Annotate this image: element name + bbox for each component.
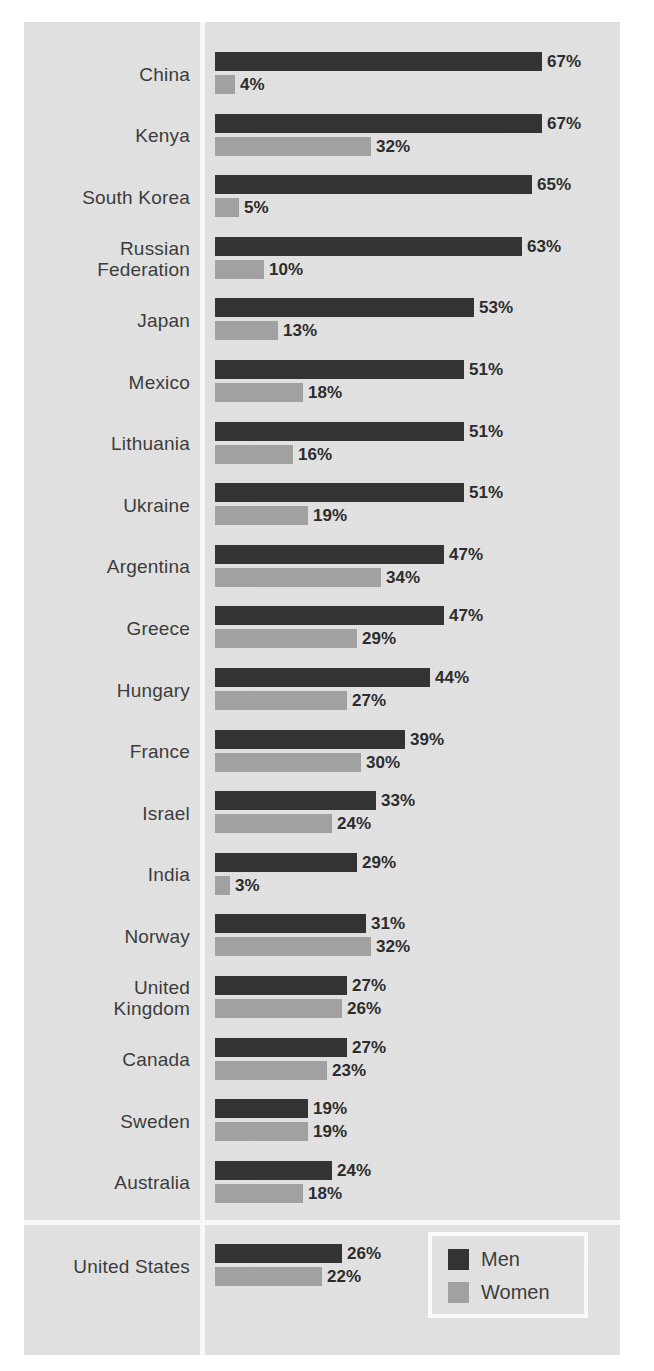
bar-value-label: 67% xyxy=(547,50,581,73)
category-label-line: Australia xyxy=(24,1172,190,1193)
bar-women: 5% xyxy=(215,198,615,217)
legend-label-women: Women xyxy=(481,1278,550,1306)
bar-fill-women xyxy=(215,321,278,340)
category-label-line: Russian xyxy=(24,238,190,259)
bar-fill-women xyxy=(215,198,239,217)
bar-men: 44% xyxy=(215,668,615,687)
bar-women: 26% xyxy=(215,999,615,1018)
category-label: Canada xyxy=(24,1049,190,1070)
category-label-line: China xyxy=(24,64,190,85)
category-label-line: Japan xyxy=(24,310,190,331)
category-label-line: Argentina xyxy=(24,556,190,577)
bar-fill-women xyxy=(215,260,264,279)
bar-value-label: 32% xyxy=(376,935,410,958)
bar-value-label: 16% xyxy=(298,443,332,466)
bar-value-label: 51% xyxy=(469,420,503,443)
category-label: China xyxy=(24,64,190,85)
bar-value-label: 33% xyxy=(381,789,415,812)
bar-women: 19% xyxy=(215,1122,615,1141)
bar-men: 67% xyxy=(215,52,615,71)
bar-value-label: 47% xyxy=(449,604,483,627)
bar-men: 29% xyxy=(215,853,615,872)
category-label: Japan xyxy=(24,310,190,331)
category-label: Sweden xyxy=(24,1111,190,1132)
bar-men: 65% xyxy=(215,175,615,194)
bar-fill-women xyxy=(215,383,303,402)
bar-fill-women xyxy=(215,445,293,464)
bar-women: 10% xyxy=(215,260,615,279)
bar-value-label: 22% xyxy=(327,1265,361,1288)
bar-value-label: 31% xyxy=(371,912,405,935)
bar-women: 24% xyxy=(215,814,615,833)
bar-men: 33% xyxy=(215,791,615,810)
bar-fill-men xyxy=(215,114,542,133)
bar-men: 24% xyxy=(215,1161,615,1180)
bar-fill-men xyxy=(215,1244,342,1263)
bar-women: 30% xyxy=(215,753,615,772)
bar-value-label: 26% xyxy=(347,1242,381,1265)
category-label: Lithuania xyxy=(24,433,190,454)
legend-swatch-women-icon xyxy=(448,1282,469,1303)
bar-value-label: 34% xyxy=(386,566,420,589)
chart-panel: China67%4%Kenya67%32%South Korea65%5%Rus… xyxy=(24,22,620,1355)
bar-fill-women xyxy=(215,814,332,833)
category-label: Ukraine xyxy=(24,495,190,516)
bar-fill-women xyxy=(215,1061,327,1080)
bar-men: 51% xyxy=(215,360,615,379)
bar-value-label: 27% xyxy=(352,974,386,997)
bar-women: 32% xyxy=(215,137,615,156)
bar-fill-men xyxy=(215,483,464,502)
bar-value-label: 26% xyxy=(347,997,381,1020)
category-label-line: Sweden xyxy=(24,1111,190,1132)
category-label: Australia xyxy=(24,1172,190,1193)
bar-value-label: 47% xyxy=(449,543,483,566)
category-label: RussianFederation xyxy=(24,238,190,280)
bar-value-label: 13% xyxy=(283,319,317,342)
category-label-line: Canada xyxy=(24,1049,190,1070)
bar-men: 19% xyxy=(215,1099,615,1118)
bar-men: 47% xyxy=(215,606,615,625)
category-label: Israel xyxy=(24,803,190,824)
bar-fill-men xyxy=(215,1161,332,1180)
bar-fill-men xyxy=(215,914,366,933)
category-label-line: Kenya xyxy=(24,125,190,146)
bar-fill-women xyxy=(215,506,308,525)
bar-fill-men xyxy=(215,606,444,625)
bar-women: 29% xyxy=(215,629,615,648)
bar-value-label: 65% xyxy=(537,173,571,196)
bar-men: 47% xyxy=(215,545,615,564)
bar-men: 31% xyxy=(215,914,615,933)
bar-women: 32% xyxy=(215,937,615,956)
category-label: UnitedKingdom xyxy=(24,977,190,1019)
bar-men: 27% xyxy=(215,1038,615,1057)
bar-women: 19% xyxy=(215,506,615,525)
bar-fill-men xyxy=(215,175,532,194)
bar-value-label: 23% xyxy=(332,1059,366,1082)
bar-value-label: 53% xyxy=(479,296,513,319)
bar-fill-men xyxy=(215,52,542,71)
bar-fill-women xyxy=(215,937,371,956)
bar-fill-women xyxy=(215,691,347,710)
bar-women: 27% xyxy=(215,691,615,710)
category-label-line: Lithuania xyxy=(24,433,190,454)
bar-value-label: 24% xyxy=(337,1159,371,1182)
bar-value-label: 29% xyxy=(362,851,396,874)
highlight-row-separator xyxy=(24,1220,620,1225)
bar-value-label: 19% xyxy=(313,1120,347,1143)
bar-fill-women xyxy=(215,568,381,587)
bar-men: 51% xyxy=(215,483,615,502)
category-label-line: Ukraine xyxy=(24,495,190,516)
legend: Men Women xyxy=(428,1232,588,1318)
bar-women: 18% xyxy=(215,383,615,402)
bar-value-label: 3% xyxy=(235,874,260,897)
bar-fill-men xyxy=(215,668,430,687)
bar-men: 63% xyxy=(215,237,615,256)
bar-value-label: 19% xyxy=(313,1097,347,1120)
bar-fill-men xyxy=(215,237,522,256)
bar-fill-men xyxy=(215,730,405,749)
category-label-line: Greece xyxy=(24,618,190,639)
bar-fill-women xyxy=(215,1184,303,1203)
bar-value-label: 10% xyxy=(269,258,303,281)
bar-fill-women xyxy=(215,1122,308,1141)
category-label: Kenya xyxy=(24,125,190,146)
